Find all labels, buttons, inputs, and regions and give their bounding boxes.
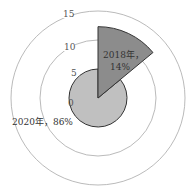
- tick-5: 5: [71, 68, 77, 78]
- polar-area-chart: 15 10 5 0 2018年， 14% 2020年，86%: [0, 0, 195, 194]
- label-2018-line1: 2018年，: [103, 49, 144, 60]
- tick-15: 15: [63, 9, 75, 19]
- label-2020: 2020年，86%: [12, 116, 73, 127]
- label-2018-line2: 14%: [110, 62, 130, 72]
- tick-10: 10: [64, 42, 76, 52]
- tick-0: 0: [68, 98, 74, 108]
